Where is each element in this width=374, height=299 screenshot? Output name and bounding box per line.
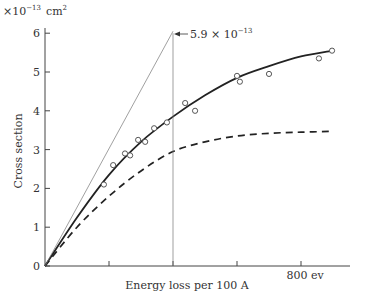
arrow-left-icon: [174, 32, 180, 37]
series-lines: [45, 31, 333, 266]
data-point: [329, 48, 334, 53]
data-point: [266, 71, 271, 76]
data-point: [164, 120, 169, 125]
initial-slope-tangent-line: [45, 31, 173, 266]
x-tick-label: 800 ev: [286, 269, 324, 282]
data-point: [237, 79, 242, 84]
annotation-text: 5.9 × 10−13: [190, 27, 252, 41]
data-points: [101, 48, 334, 187]
y-tick-label: 1: [33, 221, 40, 234]
data-point: [136, 137, 141, 142]
y-ticks: 0123456: [33, 27, 50, 273]
data-point: [101, 182, 106, 187]
data-point: [152, 126, 157, 131]
annotation-5.9e-13: 5.9 × 10−13: [174, 27, 252, 41]
y-tick-label: 5: [33, 66, 40, 79]
y-tick-label: 6: [33, 27, 40, 40]
data-point: [234, 73, 239, 78]
x-axis-title: Energy loss per 100 A: [125, 279, 249, 292]
data-point: [143, 139, 148, 144]
y-tick-label: 3: [33, 144, 40, 157]
data-point: [183, 100, 188, 105]
y-tick-label: 2: [33, 182, 40, 195]
y-tick-label: 4: [33, 105, 40, 118]
y-unit-label: ×10−13cm2: [3, 4, 67, 18]
dashed-curve-line: [45, 131, 333, 266]
axes: [45, 28, 350, 266]
data-point: [111, 163, 116, 168]
data-point: [122, 151, 127, 156]
cross-section-chart: 0123456 800 ev ×10−13cm2 Energy loss per…: [0, 0, 374, 299]
y-tick-label: 0: [33, 260, 40, 273]
data-point: [316, 56, 321, 61]
data-point: [128, 153, 133, 158]
fitted-curve-line: [45, 51, 333, 266]
data-point: [192, 108, 197, 113]
y-axis-title: Cross section: [12, 113, 25, 188]
